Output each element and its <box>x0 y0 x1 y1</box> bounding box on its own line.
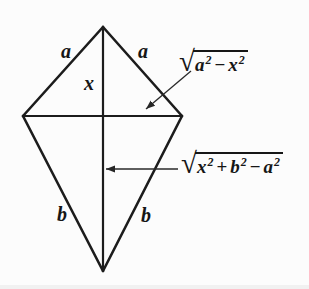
math-exponent: 2 <box>274 155 280 169</box>
math-term: x <box>228 54 238 75</box>
kite-diagram: a a x b b √a2−x2 √x2+b2−a2 <box>0 0 309 289</box>
math-exponent: 2 <box>205 53 211 67</box>
label-side-a-right: a <box>138 41 148 61</box>
math-operator: − <box>214 54 225 75</box>
math-exponent: 2 <box>239 53 245 67</box>
radicand: x2+b2−a2 <box>195 152 283 181</box>
label-side-a-left: a <box>61 41 71 61</box>
label-side-b-left: b <box>57 204 67 224</box>
math-term: a <box>264 156 274 177</box>
math-operator: + <box>216 156 227 177</box>
annotation-arrows <box>106 71 191 169</box>
side-b-left <box>23 116 103 271</box>
radicand: a2−x2 <box>193 50 248 79</box>
math-operator: − <box>250 156 261 177</box>
label-side-b-right: b <box>141 205 151 225</box>
side-b-right <box>103 116 182 271</box>
math-exponent: 2 <box>207 155 213 169</box>
kite-figure <box>0 0 309 289</box>
scan-edge-artifact <box>0 285 309 289</box>
math-term: x <box>197 156 207 177</box>
expr-sqrt-a2-minus-x2: √a2−x2 <box>179 50 248 79</box>
math-term: b <box>230 156 240 177</box>
expr-sqrt-x2-plus-b2-minus-a2: √x2+b2−a2 <box>181 152 283 181</box>
math-term: a <box>195 54 205 75</box>
label-x-segment: x <box>84 73 94 93</box>
math-exponent: 2 <box>241 155 247 169</box>
